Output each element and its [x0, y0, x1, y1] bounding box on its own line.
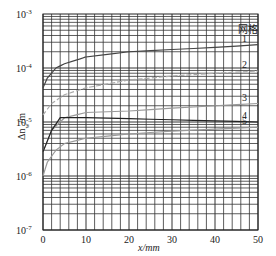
series-labels: 12345	[242, 33, 247, 127]
x-tick-label: 20	[124, 234, 134, 245]
series-line-4	[43, 118, 258, 152]
series-line-1	[43, 45, 258, 88]
y-tick-label: 10-6	[16, 170, 32, 182]
x-tick-label: 0	[41, 234, 46, 245]
y-tick-label: 10-7	[16, 224, 32, 236]
series-label-2: 2	[242, 59, 247, 70]
y-tick-label: 10-3	[16, 8, 32, 20]
series-label-5: 5	[242, 115, 247, 126]
x-axis-label: x/mm	[137, 242, 160, 253]
data-series	[43, 45, 258, 176]
x-tick-label: 50	[253, 234, 263, 245]
legend-title: 网格	[238, 23, 258, 35]
chart: 10-310-410-510-610-7 01020304050 12345 网…	[0, 0, 276, 256]
series-line-5	[43, 127, 258, 176]
series-line-2	[43, 71, 258, 115]
x-tick-label: 10	[81, 234, 91, 245]
series-label-3: 3	[242, 92, 247, 103]
y-tick-label: 10-4	[16, 62, 32, 74]
x-tick-label: 40	[210, 234, 220, 245]
series-line-3	[43, 104, 258, 152]
x-tick-label: 30	[167, 234, 177, 245]
